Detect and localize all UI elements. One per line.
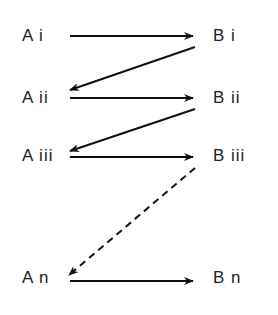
arrow-b-iii-to-a-n-dashed xyxy=(69,168,195,275)
arrows-layer xyxy=(0,0,278,315)
arrow-b-ii-to-a-iii xyxy=(70,109,195,151)
arrow-b-i-to-a-ii xyxy=(70,47,195,90)
